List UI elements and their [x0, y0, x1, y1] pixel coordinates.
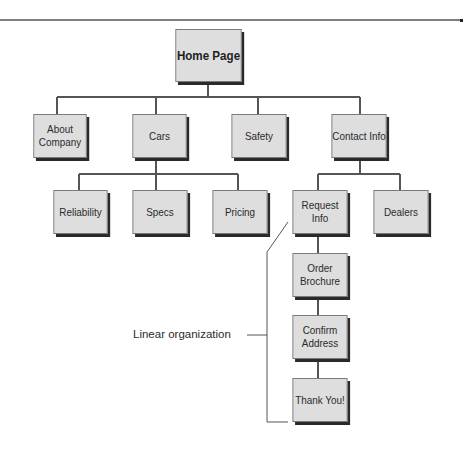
node-cars: Cars	[132, 114, 186, 158]
node-dealers: Dealers	[373, 190, 428, 234]
node-thank-you: Thank You!	[292, 378, 347, 422]
node-safety: Safety	[231, 114, 286, 158]
node-about-company: About Company	[33, 114, 86, 158]
linear-organization-label: Linear organization	[133, 328, 231, 340]
node-confirm-address: Confirm Address	[292, 315, 347, 359]
node-contact-info: Contact Info	[331, 114, 386, 158]
node-order-brochure: Order Brochure	[292, 253, 347, 297]
site-structure-diagram: Home Page About Company Cars Safety Cont…	[0, 0, 468, 450]
node-home-page: Home Page	[175, 29, 241, 82]
node-pricing: Pricing	[212, 190, 267, 234]
node-reliability: Reliability	[53, 190, 107, 234]
node-specs: Specs	[132, 190, 187, 234]
node-request-info: Request Info	[292, 190, 347, 234]
